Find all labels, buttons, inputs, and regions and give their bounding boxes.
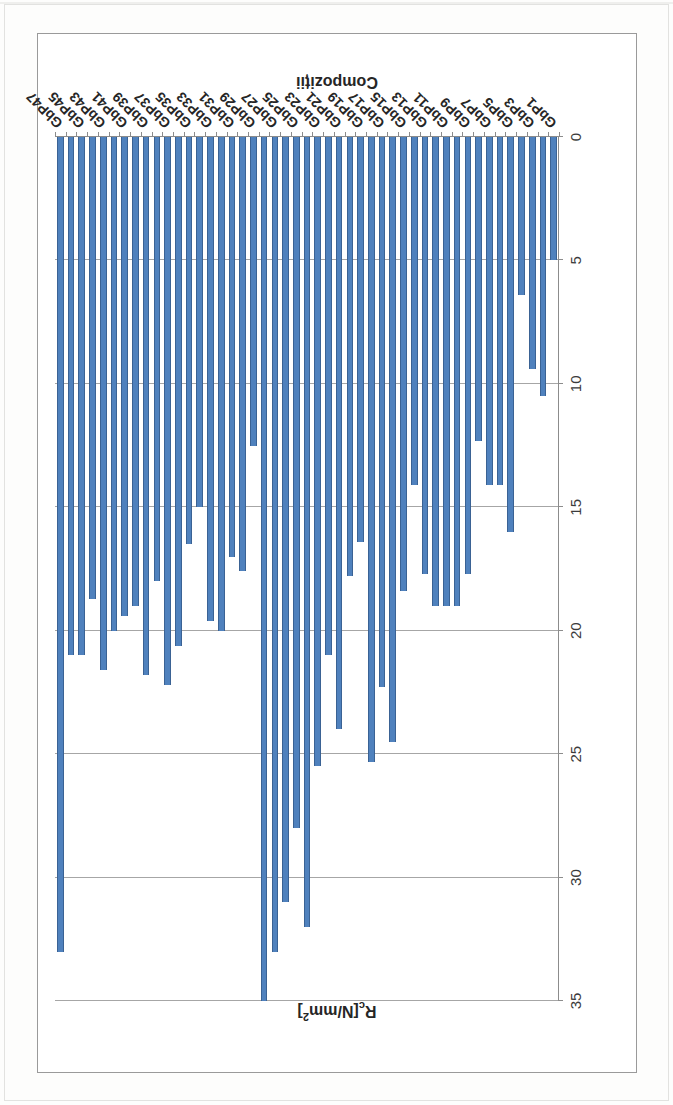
value-axis-tick	[558, 876, 563, 877]
category-axis-tick	[333, 132, 334, 137]
category-axis-tick	[194, 132, 195, 137]
category-axis-tick	[419, 132, 420, 137]
category-axis-tick	[119, 132, 120, 137]
category-axis-tick	[323, 132, 324, 137]
category-axis-tick	[248, 132, 249, 137]
category-axis-tick	[387, 132, 388, 137]
value-axis-tick-label: 10	[567, 375, 584, 392]
category-axis-tick	[205, 132, 206, 137]
value-axis-title-unit-close: ]	[297, 1003, 302, 1020]
bar	[196, 137, 203, 507]
bar	[378, 137, 385, 687]
bar	[142, 137, 149, 675]
value-axis-tick	[558, 382, 563, 383]
bar	[432, 137, 439, 606]
bar	[496, 137, 503, 485]
bar	[518, 137, 525, 295]
category-axis-tick	[172, 132, 173, 137]
bar	[271, 137, 278, 952]
bar	[121, 137, 128, 616]
value-axis: 05101520253035	[558, 137, 559, 1001]
category-axis-tick	[301, 132, 302, 137]
bar	[132, 137, 139, 606]
value-axis-tick	[558, 259, 563, 260]
bar	[185, 137, 192, 544]
category-axis-tick	[87, 132, 88, 137]
bar	[78, 137, 85, 655]
category-axis-tick	[76, 132, 77, 137]
bar	[357, 137, 364, 542]
category-axis-tick	[258, 132, 259, 137]
category-axis-tick	[376, 132, 377, 137]
bar	[539, 137, 546, 396]
category-axis-tick	[451, 132, 452, 137]
category-axis-tick	[280, 132, 281, 137]
category-axis-tick	[290, 132, 291, 137]
category-axis-tick	[494, 132, 495, 137]
category-axis-tick	[365, 132, 366, 137]
bar-chart: Rc[N/mm2] Compoziții 05101520253035 GbP1…	[37, 33, 637, 1073]
category-axis-tick	[398, 132, 399, 137]
category-axis-title: Compoziții	[296, 72, 378, 90]
bar	[453, 137, 460, 606]
category-axis-tick	[162, 132, 163, 137]
category-axis-tick	[483, 132, 484, 137]
bar	[346, 137, 353, 576]
bar	[89, 137, 96, 599]
value-axis-title-subscript: c	[358, 1000, 364, 1012]
bar	[485, 137, 492, 485]
bar	[410, 137, 417, 485]
value-axis-title-unit-open: [N/mm	[308, 1003, 358, 1020]
bar	[421, 137, 428, 574]
bar	[550, 137, 557, 260]
value-axis-tick	[558, 1000, 563, 1001]
bar	[528, 137, 535, 369]
value-axis-tick-label: 15	[567, 498, 584, 515]
bar	[314, 137, 321, 766]
category-axis-tick	[430, 132, 431, 137]
category-axis-tick	[151, 132, 152, 137]
category-axis-tick	[55, 132, 56, 137]
category-axis-tick	[505, 132, 506, 137]
bar	[110, 137, 117, 631]
category-axis-tick	[97, 132, 98, 137]
bar	[174, 137, 181, 646]
value-axis-title: Rc[N/mm2]	[297, 1000, 376, 1023]
value-axis-tick-label: 5	[567, 256, 584, 264]
category-axis-tick	[183, 132, 184, 137]
category-axis-tick	[140, 132, 141, 137]
value-axis-tick	[558, 506, 563, 507]
bar	[368, 137, 375, 762]
value-axis-tick-label: 35	[567, 992, 584, 1009]
category-axis-tick	[473, 132, 474, 137]
category-axis: GbP1GbP3GbP5GbP7GbP9GbP11GbP13GbP15GbP17…	[55, 136, 559, 137]
value-axis-tick-label: 30	[567, 869, 584, 886]
category-axis-tick	[269, 132, 270, 137]
bar	[303, 137, 310, 927]
bar	[99, 137, 106, 670]
bar	[250, 137, 257, 446]
category-axis-tick	[237, 132, 238, 137]
bar	[325, 137, 332, 655]
bar	[260, 137, 267, 1001]
value-axis-title-symbol: R	[364, 1003, 376, 1020]
bar	[282, 137, 289, 902]
bar	[292, 137, 299, 828]
value-axis-tick-label: 0	[567, 132, 584, 140]
bar	[335, 137, 342, 729]
bar	[228, 137, 235, 557]
category-axis-tick	[441, 132, 442, 137]
scan-artifact-top	[0, 2, 673, 4]
bar	[217, 137, 224, 631]
category-axis-tick	[355, 132, 356, 137]
category-axis-tick	[130, 132, 131, 137]
category-axis-tick	[215, 132, 216, 137]
category-axis-tick	[559, 132, 560, 137]
value-axis-tick	[558, 629, 563, 630]
bar	[443, 137, 450, 606]
category-axis-tick	[462, 132, 463, 137]
bar	[475, 137, 482, 441]
bar	[207, 137, 214, 621]
bar	[464, 137, 471, 574]
bar	[153, 137, 160, 581]
